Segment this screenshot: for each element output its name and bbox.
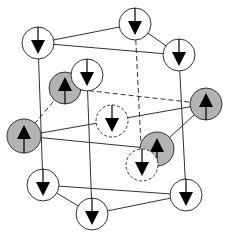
atom-top-front <box>71 59 103 91</box>
lattice-edge <box>43 185 186 195</box>
atom-top-right <box>163 39 195 71</box>
atom-mid-left <box>7 119 41 153</box>
spin-lattice-diagram <box>0 0 230 238</box>
lattice-edge <box>87 75 92 214</box>
atom-mid-right <box>190 88 222 120</box>
lattice-edge <box>38 43 179 55</box>
atom-bottom-right <box>170 179 202 211</box>
atom-bottom-left <box>27 169 59 201</box>
atom-center <box>96 105 128 137</box>
atom-top-left <box>22 27 54 59</box>
atom-bottom-back <box>126 149 158 181</box>
atom-top-back <box>119 8 151 40</box>
atom-bottom-front <box>76 198 108 230</box>
lattice-edge <box>24 136 157 149</box>
